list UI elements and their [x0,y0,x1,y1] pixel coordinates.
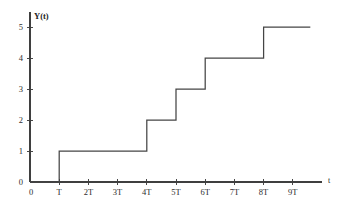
x-axis-tick-label: 7T [230,187,240,197]
x-axis-tick-label: 0 [29,187,33,197]
y-axis-tick-label: 0 [19,177,23,187]
step-function-curve [30,27,310,182]
step-function-chart: 012345 0T2T3T4T5T6T7T8T9T Y(t) t [0,0,341,206]
x-axis-tick-label: T [57,187,63,197]
y-axis-tick-label: 3 [19,84,23,94]
x-axis-tick-label: 2T [84,187,94,197]
x-axis-tick-label: 5T [171,187,181,197]
plot-canvas: 012345 0T2T3T4T5T6T7T8T9T Y(t) t [0,0,341,206]
x-axis-tick-label: 3T [113,187,123,197]
y-axis-title: Y(t) [34,11,49,21]
x-axis-tick-label: 8T [259,187,269,197]
y-axis-tick-label: 2 [19,115,23,125]
x-axis-tick-label: 6T [200,187,210,197]
y-axis-tick-label: 5 [19,22,23,32]
x-axis-tick-label: 9T [288,187,298,197]
y-axis-tick-label: 4 [19,53,24,63]
x-axis-tick-label: 4T [142,187,152,197]
x-axis-title: t [328,176,331,185]
y-axis-tick-group: 012345 [19,22,33,187]
y-axis-tick-label: 1 [19,146,23,156]
